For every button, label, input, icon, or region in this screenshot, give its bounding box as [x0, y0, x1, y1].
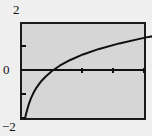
plot-frame [20, 22, 146, 120]
y-axis-label-min: −2 [2, 120, 16, 133]
y-axis-label-max: 2 [13, 3, 20, 16]
y-axis-label-zero: 0 [3, 63, 10, 76]
chart-figure: 2 0 −2 [0, 0, 152, 136]
